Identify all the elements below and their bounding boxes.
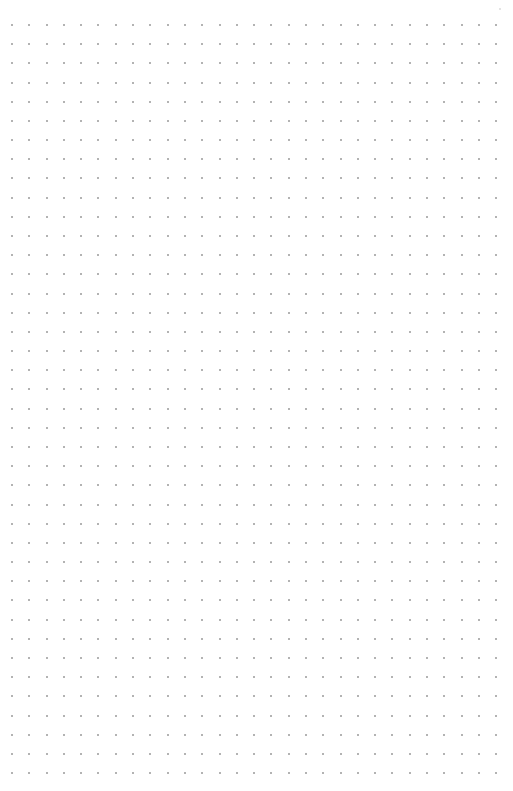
grid-dot bbox=[322, 446, 324, 448]
grid-dot bbox=[288, 235, 290, 237]
grid-dot bbox=[340, 369, 342, 371]
grid-dot bbox=[461, 139, 463, 141]
grid-dot bbox=[270, 158, 272, 160]
grid-dot bbox=[288, 523, 290, 525]
grid-dot bbox=[288, 350, 290, 352]
grid-dot bbox=[288, 254, 290, 256]
grid-dot bbox=[322, 273, 324, 275]
grid-dot bbox=[253, 312, 255, 314]
grid-dot bbox=[63, 101, 65, 103]
grid-dot bbox=[443, 657, 445, 659]
grid-dot bbox=[305, 331, 307, 333]
grid-dot bbox=[426, 561, 428, 563]
grid-dot bbox=[201, 350, 203, 352]
grid-dot bbox=[409, 446, 411, 448]
grid-dot bbox=[443, 388, 445, 390]
grid-dot bbox=[63, 599, 65, 601]
grid-dot bbox=[357, 772, 359, 774]
grid-dot bbox=[80, 139, 82, 141]
grid-dot bbox=[391, 369, 393, 371]
grid-dot bbox=[80, 504, 82, 506]
grid-dot bbox=[288, 695, 290, 697]
grid-dot bbox=[132, 197, 134, 199]
grid-dot bbox=[443, 293, 445, 295]
grid-dot bbox=[149, 139, 151, 141]
grid-dot bbox=[11, 158, 13, 160]
grid-dot bbox=[115, 158, 117, 160]
grid-dot bbox=[97, 216, 99, 218]
grid-dot bbox=[236, 43, 238, 45]
grid-dot bbox=[253, 177, 255, 179]
grid-dot bbox=[201, 676, 203, 678]
grid-dot bbox=[340, 676, 342, 678]
grid-dot bbox=[97, 235, 99, 237]
grid-dot bbox=[443, 561, 445, 563]
grid-dot bbox=[461, 177, 463, 179]
grid-dot bbox=[426, 695, 428, 697]
grid-dot bbox=[478, 427, 480, 429]
grid-dot bbox=[28, 484, 30, 486]
grid-dot bbox=[495, 427, 497, 429]
grid-dot bbox=[63, 216, 65, 218]
grid-dot bbox=[391, 235, 393, 237]
grid-dot bbox=[391, 465, 393, 467]
grid-dot bbox=[201, 734, 203, 736]
grid-dot bbox=[149, 542, 151, 544]
grid-dot bbox=[63, 484, 65, 486]
grid-dot bbox=[201, 715, 203, 717]
grid-dot bbox=[28, 523, 30, 525]
grid-dot bbox=[443, 120, 445, 122]
grid-dot bbox=[478, 504, 480, 506]
grid-dot bbox=[167, 158, 169, 160]
grid-dot bbox=[357, 427, 359, 429]
grid-dot bbox=[253, 235, 255, 237]
grid-dot bbox=[426, 465, 428, 467]
grid-dot bbox=[409, 158, 411, 160]
grid-dot bbox=[167, 331, 169, 333]
grid-dot bbox=[46, 388, 48, 390]
grid-dot bbox=[167, 715, 169, 717]
grid-dot bbox=[270, 235, 272, 237]
grid-dot bbox=[63, 523, 65, 525]
grid-dot bbox=[149, 657, 151, 659]
grid-dot bbox=[461, 216, 463, 218]
dot-grid-canvas[interactable] bbox=[0, 0, 513, 791]
grid-dot bbox=[305, 312, 307, 314]
grid-dot bbox=[478, 408, 480, 410]
grid-dot bbox=[219, 331, 221, 333]
grid-dot bbox=[374, 24, 376, 26]
grid-dot bbox=[391, 101, 393, 103]
grid-dot bbox=[97, 542, 99, 544]
grid-dot bbox=[97, 293, 99, 295]
grid-dot bbox=[288, 657, 290, 659]
grid-dot bbox=[132, 753, 134, 755]
grid-dot bbox=[495, 293, 497, 295]
grid-dot bbox=[443, 734, 445, 736]
grid-dot bbox=[63, 312, 65, 314]
grid-dot bbox=[478, 542, 480, 544]
grid-dot bbox=[391, 580, 393, 582]
grid-dot bbox=[357, 465, 359, 467]
grid-dot bbox=[167, 599, 169, 601]
grid-dot bbox=[270, 388, 272, 390]
grid-dot bbox=[236, 676, 238, 678]
grid-dot bbox=[28, 715, 30, 717]
grid-dot bbox=[219, 446, 221, 448]
grid-dot bbox=[322, 715, 324, 717]
grid-dot bbox=[478, 101, 480, 103]
grid-dot bbox=[80, 484, 82, 486]
grid-dot bbox=[443, 216, 445, 218]
grid-dot bbox=[236, 753, 238, 755]
grid-dot bbox=[167, 734, 169, 736]
grid-dot bbox=[270, 350, 272, 352]
grid-dot bbox=[409, 120, 411, 122]
grid-dot bbox=[270, 753, 272, 755]
grid-dot bbox=[97, 504, 99, 506]
grid-dot bbox=[409, 139, 411, 141]
grid-dot bbox=[374, 369, 376, 371]
grid-dot bbox=[270, 120, 272, 122]
grid-dot bbox=[80, 465, 82, 467]
grid-dot bbox=[115, 43, 117, 45]
grid-dot bbox=[184, 62, 186, 64]
grid-dot bbox=[236, 580, 238, 582]
